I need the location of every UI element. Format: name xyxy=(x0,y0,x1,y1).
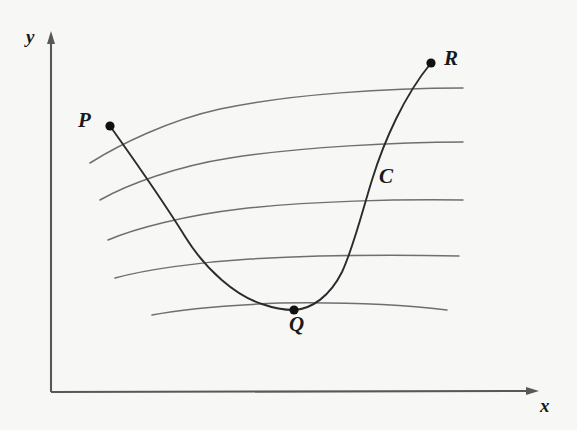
x-axis-label: x xyxy=(540,396,550,415)
axes-group xyxy=(47,31,539,395)
y-axis-arrowhead xyxy=(47,31,55,44)
point-label-p: P xyxy=(78,110,91,131)
x-axis-arrowhead xyxy=(526,387,539,395)
diagram-svg xyxy=(0,0,577,430)
level-curve-4 xyxy=(115,255,459,278)
curve-label-c: C xyxy=(379,166,393,187)
level-curves-group xyxy=(90,88,463,315)
point-label-r: R xyxy=(444,48,458,69)
y-axis-label: y xyxy=(26,27,34,46)
point-p-dot xyxy=(105,121,114,130)
point-r-dot xyxy=(426,58,435,67)
x-axis-line xyxy=(51,391,530,392)
level-curve-3 xyxy=(108,200,463,240)
figure-canvas: y x P Q R C xyxy=(0,0,577,430)
point-label-q: Q xyxy=(289,314,304,335)
